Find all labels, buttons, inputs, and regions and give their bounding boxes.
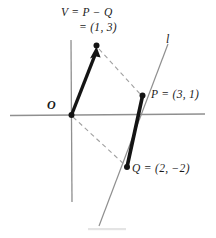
dashed-segment-o-to-q [73, 117, 126, 166]
dashed-segment-v-to-p [99, 49, 141, 95]
point-dot-origin [69, 112, 75, 118]
segment-pq [127, 96, 143, 167]
y-axis [71, 40, 72, 202]
label-origin: O [47, 99, 56, 112]
vector-ov-shaft [72, 55, 96, 115]
x-axis [10, 114, 205, 116]
label-vector-definition-line1: V = P − Q [61, 6, 113, 18]
vector-diagram-figure: V = P − Q = (1, 3) P = (3, 1) Q = (2, −2… [0, 0, 216, 238]
label-point-q: Q = (2, −2) [132, 162, 190, 174]
label-point-p: P = (3, 1) [151, 88, 199, 100]
diagram-canvas [0, 0, 216, 238]
label-vector-definition-line2: = (1, 3) [79, 21, 117, 33]
label-line-l: l [166, 33, 170, 46]
page-artifact-smudge [88, 228, 126, 230]
point-dot-q [124, 164, 130, 170]
point-dot-v [94, 43, 100, 49]
point-dot-p [140, 93, 146, 99]
